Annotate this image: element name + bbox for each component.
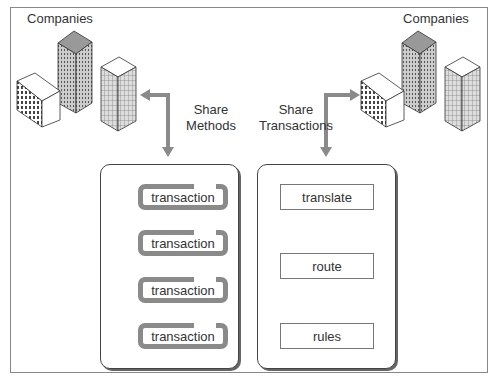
transaction-item: transaction	[138, 230, 228, 256]
share-transactions-line2: Transactions	[256, 118, 336, 134]
share-transactions-line1: Share	[256, 102, 336, 118]
left-companies-label: Companies	[10, 11, 110, 27]
share-transactions-label: Share Transactions	[256, 102, 336, 134]
share-methods-line2: Methods	[176, 118, 246, 134]
right-buildings-icon	[361, 31, 480, 131]
left-buildings-icon	[17, 31, 136, 131]
rules-box: rules	[280, 323, 374, 349]
transaction-label: transaction	[138, 184, 228, 210]
right-companies-label: Companies	[386, 11, 486, 27]
transaction-item: transaction	[138, 277, 228, 303]
share-methods-label: Share Methods	[176, 102, 246, 134]
diagram-graphics	[0, 0, 496, 385]
transaction-item: transaction	[138, 184, 228, 210]
share-methods-arrow-icon	[140, 89, 174, 157]
transaction-label: transaction	[138, 230, 228, 256]
transaction-label: transaction	[138, 323, 228, 349]
transaction-item: transaction	[138, 323, 228, 349]
transaction-label: transaction	[138, 277, 228, 303]
translate-box: translate	[280, 184, 374, 210]
route-box: route	[280, 253, 374, 279]
share-methods-line1: Share	[176, 102, 246, 118]
